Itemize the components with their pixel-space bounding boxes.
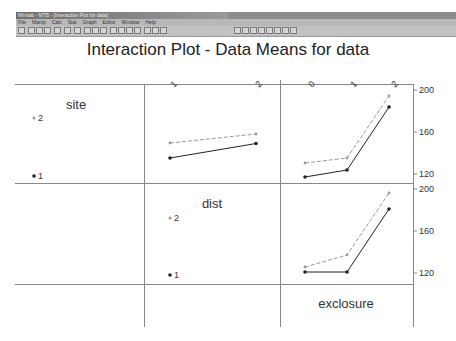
interaction-plot-matrix: 1 2 0 1 2 200 160 120 200 160 120 site d… <box>0 0 456 341</box>
legend-marker-gray <box>33 117 36 120</box>
legend-label: 1 <box>38 171 43 181</box>
right-axis-label: 200 <box>419 85 434 95</box>
right-axis-label: 160 <box>419 127 434 137</box>
series-site1 <box>170 144 256 159</box>
dist-legend: 2 1 <box>168 213 179 280</box>
panel-site-by-dist <box>168 133 258 160</box>
factor-label-site: site <box>66 97 86 112</box>
legend-label: 2 <box>38 113 43 123</box>
right-axis-label: 120 <box>419 268 434 278</box>
legend-marker-black <box>168 273 172 277</box>
legend-label: 2 <box>174 213 179 223</box>
legend-label: 1 <box>174 270 179 280</box>
factor-label-exclosure: exclosure <box>318 296 374 311</box>
panel-site-by-exclosure <box>303 95 391 179</box>
series-dist1 <box>305 209 389 272</box>
right-axis-label: 120 <box>419 169 434 179</box>
legend-marker-gray <box>169 217 172 220</box>
legend-marker-black <box>32 174 36 178</box>
right-axis-label: 200 <box>419 184 434 194</box>
site-legend: 2 1 <box>32 113 43 181</box>
panel-dist-by-exclosure <box>303 192 391 274</box>
series-site2 <box>170 134 256 143</box>
series-site2 <box>305 96 389 163</box>
factor-label-dist: dist <box>202 196 223 211</box>
series-site1 <box>305 107 389 177</box>
right-axis-label: 160 <box>419 226 434 236</box>
